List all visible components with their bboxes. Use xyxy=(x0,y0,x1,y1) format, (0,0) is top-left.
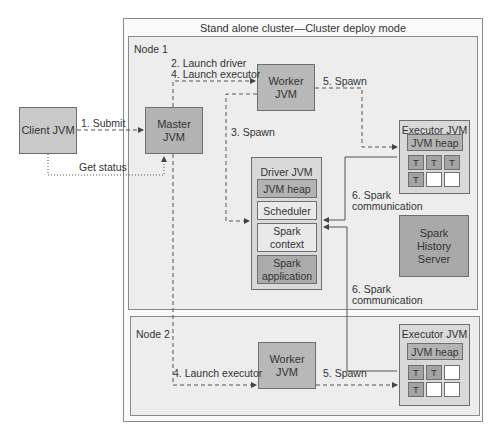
driver-jvm-title: Driver JVM xyxy=(252,166,321,178)
edge-spawn5-label: 5. Spawn xyxy=(323,75,367,88)
spark-application-line1: Spark xyxy=(273,257,300,270)
worker-jvm-node2-line2: JVM xyxy=(276,366,298,379)
task-slot-empty xyxy=(444,172,460,187)
edge-spawn3-label: 3. Spawn xyxy=(231,126,275,139)
worker-jvm-node1: Worker JVM xyxy=(257,64,315,111)
master-jvm-line1: Master xyxy=(157,118,191,131)
task-slot-empty xyxy=(444,365,460,380)
task-slot-empty xyxy=(426,172,442,187)
spark-history-server: Spark History Server xyxy=(399,215,469,277)
history-line1: Spark xyxy=(420,227,449,240)
client-jvm: Client JVM xyxy=(19,107,77,154)
cluster-title: Stand alone cluster—Cluster deploy mode xyxy=(123,22,483,34)
task-slot-empty xyxy=(426,382,442,397)
executor-node2-task-slots: T T T xyxy=(408,365,460,397)
executor-node1-heap: JVM heap xyxy=(407,134,463,151)
history-line3: Server xyxy=(418,253,450,266)
edge-launch-executor-node2-label: 4. Launch executor xyxy=(173,367,262,380)
executor-node1-task-slots: T T T T xyxy=(408,155,460,187)
executor-node2-heap: JVM heap xyxy=(407,343,463,360)
task-slot: T xyxy=(426,155,442,170)
driver-jvm-heap: JVM heap xyxy=(257,179,317,198)
edge-comm1-line2: communication xyxy=(352,200,423,213)
task-slot: T xyxy=(444,155,460,170)
edge-comm2-line2: communication xyxy=(352,294,423,307)
task-slot: T xyxy=(426,365,442,380)
task-slot: T xyxy=(408,382,424,397)
driver-scheduler: Scheduler xyxy=(257,201,317,220)
task-slot: T xyxy=(408,365,424,380)
edge-launch-executor-label: 4. Launch executor xyxy=(171,68,260,81)
spark-context-line1: Spark xyxy=(273,225,300,238)
spark-application-line2: application xyxy=(262,270,312,283)
node-1-label: Node 1 xyxy=(134,43,168,56)
master-jvm-line2: JVM xyxy=(163,131,185,144)
client-jvm-label: Client JVM xyxy=(21,124,74,137)
edge-spawn5-node2-label: 5. Spawn xyxy=(323,367,367,380)
node-2-label: Node 2 xyxy=(136,328,170,341)
master-jvm: Master JVM xyxy=(145,107,203,154)
edge-submit-label: 1. Submit xyxy=(81,117,125,130)
worker-jvm-node2: Worker JVM xyxy=(258,342,316,389)
worker-jvm-node1-line1: Worker xyxy=(268,75,303,88)
edge-get-status-label: Get status xyxy=(79,161,127,174)
task-slot: T xyxy=(408,155,424,170)
driver-spark-context: Spark context xyxy=(257,223,317,252)
executor-jvm-node2-title: Executor JVM xyxy=(400,328,469,340)
worker-jvm-node1-line2: JVM xyxy=(275,88,297,101)
worker-jvm-node2-line1: Worker xyxy=(269,353,304,366)
task-slot-empty xyxy=(444,382,460,397)
task-slot: T xyxy=(408,172,424,187)
spark-context-line2: context xyxy=(270,238,304,251)
history-line2: History xyxy=(417,240,451,253)
driver-spark-application: Spark application xyxy=(257,255,317,284)
